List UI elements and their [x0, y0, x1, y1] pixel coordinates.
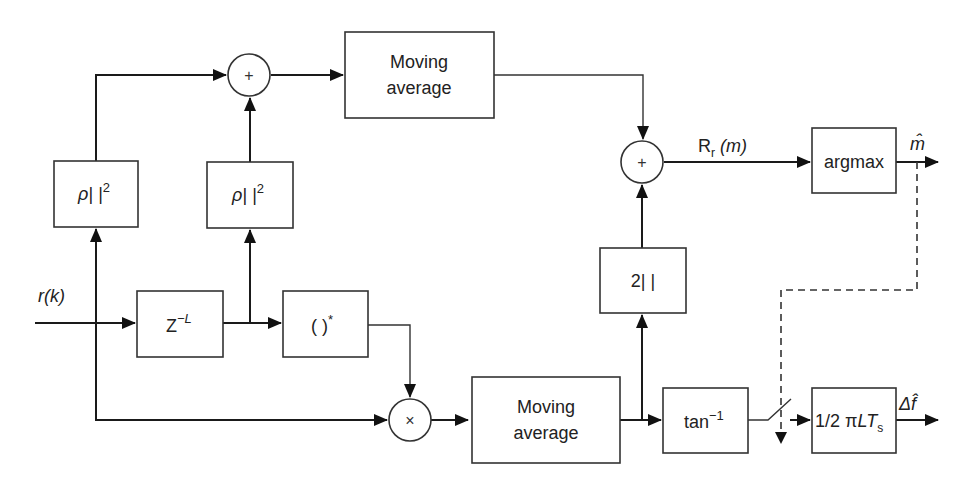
moving-average-bottom-block: Moving average [472, 377, 620, 463]
ma-top-line2: average [386, 78, 451, 98]
multiply-operator: × [389, 399, 431, 441]
switch [748, 399, 791, 420]
wire-ma-to-sum-right [494, 75, 643, 139]
moving-average-top-block: Moving average [345, 32, 494, 118]
wire-conj-to-multiply [368, 325, 410, 397]
power-block-2: ρ| |2 [207, 162, 293, 228]
wire-power1-to-sum [96, 75, 226, 161]
sum-top-operator: + [228, 54, 270, 96]
scale-block: 1/2 πLTs [812, 388, 896, 453]
ma-bottom-line2: average [513, 423, 578, 443]
delay-block: Z−L [137, 291, 223, 357]
timing-output-label: m̂ [910, 133, 925, 154]
power-block-1: ρ| |2 [54, 161, 138, 227]
ma-bottom-line1: Moving [517, 397, 575, 417]
argmax-block: argmax [812, 128, 896, 193]
conjugate-block: ( )* [283, 291, 368, 357]
plus-icon: + [244, 67, 253, 84]
metric-label: Rr (m) [698, 136, 747, 160]
argmax-label: argmax [824, 152, 884, 172]
arctan-block: tan−1 [663, 388, 748, 453]
input-label: r(k) [38, 286, 65, 306]
block-diagram: ρ| |2 ρ| |2 Z−L ( )* Moving average Movi… [0, 0, 972, 484]
ma-top-line1: Moving [390, 52, 448, 72]
freq-output-label: Δf̂ [898, 393, 918, 414]
abs2-label: 2| | [631, 271, 655, 291]
times-icon: × [405, 412, 414, 429]
plus-icon: + [637, 154, 646, 171]
sum-right-operator: + [621, 141, 663, 183]
abs2-block: 2| | [600, 248, 686, 313]
dashed-arrowhead [775, 432, 787, 444]
